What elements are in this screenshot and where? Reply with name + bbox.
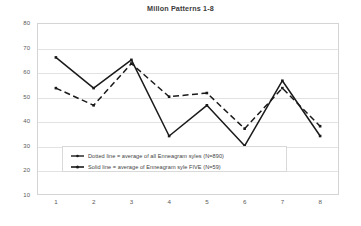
y-axis: 1020304050607080 [0, 23, 34, 195]
legend-label-solid: Solid line = average of Enneagram syle F… [88, 164, 221, 170]
y-axis-tick-label: 10 [23, 192, 30, 198]
data-point [55, 56, 58, 59]
x-axis: 12345678 [37, 198, 339, 212]
data-point [168, 95, 171, 98]
data-point [206, 92, 209, 95]
legend-item-dotted: Dotted line = average of all Enneagram s… [71, 150, 224, 161]
x-axis-tick-label: 3 [130, 198, 133, 205]
data-point [319, 135, 322, 138]
x-axis-tick-label: 7 [281, 198, 284, 205]
y-axis-tick-label: 40 [23, 118, 30, 124]
x-axis-tick-label: 6 [243, 198, 246, 205]
data-point [92, 104, 95, 107]
x-axis-tick-label: 2 [92, 198, 95, 205]
data-point [130, 59, 133, 62]
chart-title: Millon Patterns 1-8 [0, 4, 361, 13]
x-axis-tick-label: 5 [205, 198, 208, 205]
x-axis-tick-label: 4 [167, 198, 170, 205]
data-point [281, 79, 284, 82]
dashed-line-icon [71, 153, 84, 159]
chart-container: Millon Patterns 1-8 1020304050607080 123… [0, 0, 361, 226]
y-axis-tick-label: 30 [23, 143, 30, 149]
data-point [55, 87, 58, 90]
y-axis-tick-label: 60 [23, 69, 30, 75]
solid-line-icon [71, 164, 84, 170]
data-point [319, 125, 322, 128]
y-axis-tick-label: 50 [23, 94, 30, 100]
data-point [281, 87, 284, 90]
legend-label-dotted: Dotted line = average of all Enneagram s… [88, 153, 224, 159]
series-line-2 [56, 57, 320, 145]
legend-item-solid: Solid line = average of Enneagram syle F… [71, 161, 221, 172]
y-axis-tick-label: 70 [23, 45, 30, 51]
x-axis-tick-label: 1 [54, 198, 57, 205]
chart-legend: Dotted line = average of all Enneagram s… [62, 146, 287, 172]
y-axis-tick-label: 80 [23, 20, 30, 26]
data-point [206, 104, 209, 107]
data-point [92, 87, 95, 90]
x-axis-tick-label: 8 [318, 198, 321, 205]
data-point [243, 127, 246, 130]
y-axis-tick-label: 20 [23, 167, 30, 173]
series-line-1 [56, 64, 320, 129]
data-point [168, 135, 171, 138]
